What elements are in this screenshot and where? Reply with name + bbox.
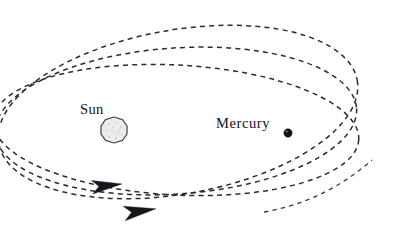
sun-label: Sun: [80, 101, 104, 117]
mercury-label: Mercury: [216, 115, 270, 131]
arrow-group: [91, 177, 156, 220]
mercury-dot: [284, 129, 292, 137]
orbit-path-2: [0, 36, 362, 207]
orbit-path-3: [0, 56, 362, 205]
direction-arrow-upper: [91, 177, 122, 194]
orbit-group: [0, 0, 372, 224]
orbit-canvas: Sun Mercury: [0, 0, 398, 234]
sun-disc: [101, 117, 127, 143]
orbit-trailing-segment: [264, 160, 372, 212]
orbit-path-1: [0, 0, 371, 224]
direction-arrow-lower: [123, 202, 157, 221]
mercury-highlight: [286, 130, 288, 132]
mercury-body: [284, 129, 292, 137]
mercury-precession-diagram: Sun Mercury: [0, 0, 398, 234]
sun-body: [101, 117, 127, 143]
